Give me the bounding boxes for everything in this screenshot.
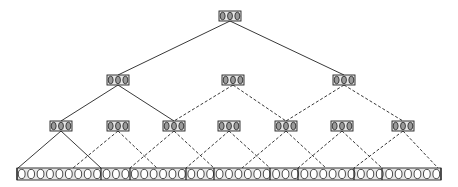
slot-ellipse-icon: [172, 122, 177, 130]
slot-ellipse-icon: [37, 169, 44, 178]
slot-ellipse-icon: [282, 169, 289, 178]
slot-ellipse-icon: [395, 169, 402, 178]
slot-ellipse-icon: [59, 122, 64, 130]
slot-ellipse-icon: [414, 169, 421, 178]
slot-ellipse-icon: [276, 122, 281, 130]
slot-ellipse-icon: [358, 169, 365, 178]
slot-ellipse-icon: [197, 169, 204, 178]
slot-ellipse-icon: [433, 169, 440, 178]
slot-ellipse-icon: [228, 12, 233, 20]
tree-node: [275, 121, 297, 131]
solid-edge: [61, 85, 118, 121]
dashed-edge: [286, 131, 326, 168]
slot-ellipse-icon: [178, 169, 185, 178]
slot-ellipse-icon: [220, 12, 225, 20]
slot-ellipse-icon: [164, 122, 169, 130]
nodes-layer: [17, 11, 441, 180]
tree-node: [219, 11, 241, 21]
slot-ellipse-icon: [310, 169, 317, 178]
slot-ellipse-icon: [223, 76, 228, 84]
slot-ellipse-icon: [235, 169, 242, 178]
slot-ellipse-icon: [386, 169, 393, 178]
solid-edge: [118, 85, 174, 121]
slot-ellipse-icon: [347, 122, 352, 130]
slot-ellipse-icon: [273, 169, 280, 178]
slot-ellipse-icon: [263, 169, 270, 178]
slot-ellipse-icon: [226, 169, 233, 178]
slot-ellipse-icon: [301, 169, 308, 178]
solid-edge: [230, 21, 344, 75]
slot-ellipse-icon: [238, 76, 243, 84]
slot-ellipse-icon: [84, 169, 91, 178]
slot-ellipse-icon: [160, 169, 167, 178]
slot-ellipse-icon: [116, 122, 121, 130]
tree-node: [333, 75, 355, 85]
slot-ellipse-icon: [141, 169, 148, 178]
slot-ellipse-icon: [367, 169, 374, 178]
slot-ellipse-icon: [113, 169, 120, 178]
tree-diagram-svg: [0, 0, 458, 187]
slot-ellipse-icon: [66, 122, 71, 130]
dashed-edge: [174, 85, 233, 121]
slot-ellipse-icon: [216, 169, 223, 178]
slot-ellipse-icon: [423, 169, 430, 178]
slot-ellipse-icon: [349, 76, 354, 84]
slot-ellipse-icon: [47, 169, 54, 178]
tree-node: [50, 121, 72, 131]
slot-ellipse-icon: [188, 169, 195, 178]
slot-ellipse-icon: [320, 169, 327, 178]
slot-ellipse-icon: [179, 122, 184, 130]
slot-ellipse-icon: [28, 169, 35, 178]
slot-ellipse-icon: [94, 169, 101, 178]
slot-ellipse-icon: [75, 169, 82, 178]
slot-ellipse-icon: [108, 76, 113, 84]
slot-ellipse-icon: [284, 122, 289, 130]
slot-ellipse-icon: [131, 169, 138, 178]
slot-ellipse-icon: [207, 169, 214, 178]
slot-ellipse-icon: [18, 169, 25, 178]
slot-ellipse-icon: [254, 169, 261, 178]
slot-ellipse-icon: [123, 76, 128, 84]
solid-edge: [61, 131, 101, 168]
tree-node: [107, 75, 129, 85]
dashed-edge: [130, 131, 174, 168]
dashed-edge: [344, 85, 403, 121]
slot-ellipse-icon: [405, 169, 412, 178]
slot-ellipse-icon: [408, 122, 413, 130]
slot-ellipse-icon: [108, 122, 113, 130]
slot-ellipse-icon: [292, 169, 299, 178]
slot-ellipse-icon: [122, 169, 129, 178]
slot-ellipse-icon: [339, 169, 346, 178]
slot-ellipse-icon: [227, 122, 232, 130]
tree-node: [331, 121, 353, 131]
slot-ellipse-icon: [103, 169, 110, 178]
slot-ellipse-icon: [342, 76, 347, 84]
slot-ellipse-icon: [401, 122, 406, 130]
edges-layer: [18, 21, 438, 168]
slot-ellipse-icon: [332, 122, 337, 130]
slot-ellipse-icon: [244, 169, 251, 178]
dashed-edge: [233, 85, 286, 121]
tree-diagram: [0, 0, 458, 187]
dashed-edge: [286, 85, 344, 121]
tree-node: [218, 121, 240, 131]
slot-ellipse-icon: [51, 122, 56, 130]
slot-ellipse-icon: [169, 169, 176, 178]
slot-ellipse-icon: [65, 169, 72, 178]
slot-ellipse-icon: [334, 76, 339, 84]
tree-node: [222, 75, 244, 85]
slot-ellipse-icon: [329, 169, 336, 178]
slot-ellipse-icon: [150, 169, 157, 178]
tree-node: [107, 121, 129, 131]
solid-edge: [18, 131, 61, 168]
slot-ellipse-icon: [231, 76, 236, 84]
dashed-edge: [229, 131, 270, 168]
slot-ellipse-icon: [291, 122, 296, 130]
slot-ellipse-icon: [340, 122, 345, 130]
slot-ellipse-icon: [235, 12, 240, 20]
solid-edge: [118, 21, 230, 75]
tree-node: [392, 121, 414, 131]
slot-ellipse-icon: [116, 76, 121, 84]
dashed-edge: [403, 131, 438, 168]
slot-ellipse-icon: [123, 122, 128, 130]
